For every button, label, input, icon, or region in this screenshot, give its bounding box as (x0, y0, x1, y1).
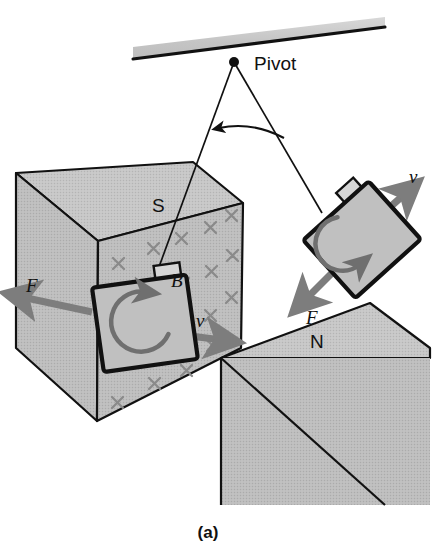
field-label-B: B (171, 270, 183, 291)
velocity-label-right: v (409, 166, 418, 187)
magnet-north: N (221, 303, 430, 505)
figure-canvas: S N Pivot (0, 0, 444, 551)
string-right (234, 62, 322, 213)
force-label-right: F (305, 307, 318, 328)
velocity-label-left: v (196, 310, 205, 331)
figure-caption: (a) (198, 523, 219, 542)
north-pole-label: N (310, 331, 324, 352)
south-pole-label: S (152, 195, 165, 216)
pivot-point (229, 57, 239, 67)
pivot-label: Pivot (254, 53, 297, 74)
magnet-north-front-face (221, 358, 430, 505)
magnet-north-top-face (221, 303, 430, 358)
pendulum-right: v F (295, 166, 421, 328)
force-label-left: F (25, 275, 38, 296)
physics-figure: S N Pivot (0, 0, 444, 551)
